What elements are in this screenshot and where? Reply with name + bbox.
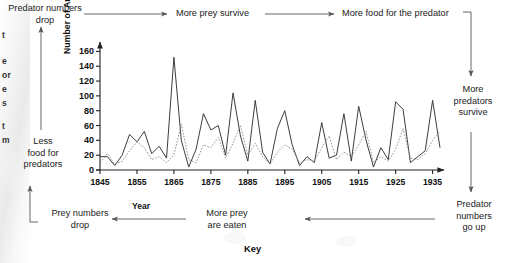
arrow-right-elbow xyxy=(463,12,471,76)
arrow-left-elbow xyxy=(30,186,38,222)
flow-label-more-prey-survive: More prey survive xyxy=(176,8,268,20)
flow-label-prey-numbers-drop: Prey numbers drop xyxy=(47,208,113,231)
flow-label-less-food-for-predators: Less food for predators xyxy=(17,136,69,171)
x-axis-title: Year xyxy=(132,201,150,211)
flow-label-predator-numbers-drop: Predator numbers drop xyxy=(6,3,84,26)
key-title: Key xyxy=(244,243,261,254)
plot-area xyxy=(64,38,454,198)
flow-label-more-prey-are-eaten: More prey are eaten xyxy=(190,208,264,231)
population-line-chart: Number of Animals in Thousands 020406080… xyxy=(64,38,454,198)
flow-label-predator-numbers-go-up: Predator numbers go up xyxy=(444,199,504,234)
series-line xyxy=(100,124,440,164)
flow-label-more-food-for-predator: More food for the predator xyxy=(342,8,467,20)
figure-canvas: t e or e s t m Pr xyxy=(0,0,506,263)
series-line xyxy=(100,57,440,167)
